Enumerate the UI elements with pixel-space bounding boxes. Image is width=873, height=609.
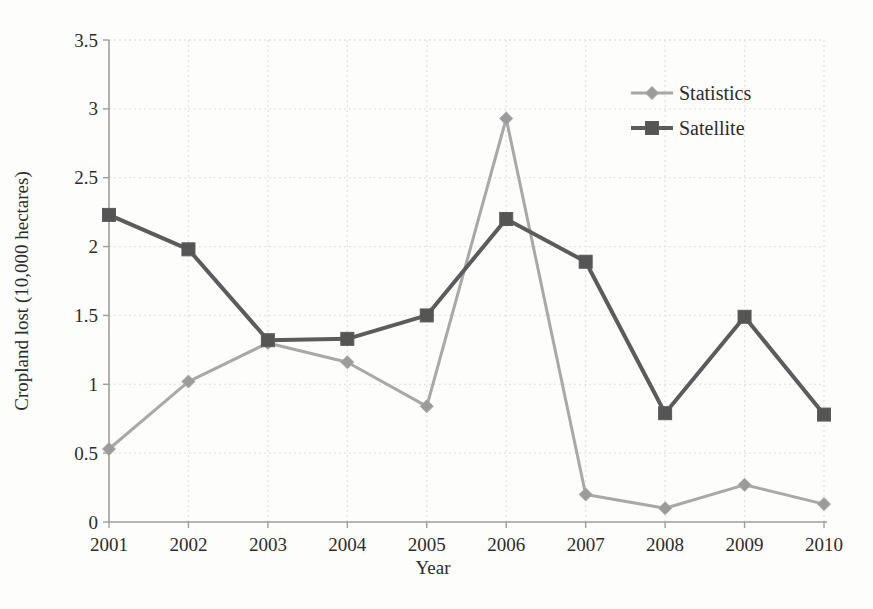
- legend-item-statistics: Statistics: [631, 82, 751, 104]
- x-tick-label: 2001: [90, 534, 128, 555]
- line-chart-figure: 00.511.522.533.5200120022003200420052006…: [0, 0, 873, 609]
- data-point-satellite-2002: [182, 243, 195, 256]
- legend-item-satellite: Satellite: [631, 117, 745, 139]
- legend-marker-diamond-icon: [646, 87, 659, 100]
- legend-marker-square-icon: [646, 122, 659, 135]
- legend-label-statistics: Statistics: [679, 82, 751, 104]
- x-tick-label: 2005: [408, 534, 446, 555]
- x-tick-label: 2010: [805, 534, 843, 555]
- x-axis-title: Year: [415, 557, 451, 578]
- x-tick-label: 2003: [249, 534, 287, 555]
- y-axis-title: Cropland lost (10,000 hectares): [11, 171, 33, 411]
- y-tick-label: 2: [89, 236, 99, 257]
- x-tick-label: 2002: [169, 534, 207, 555]
- data-point-statistics-2009: [738, 478, 751, 491]
- y-tick-label: 1: [89, 374, 99, 395]
- data-point-statistics-2004: [341, 356, 354, 369]
- chart-canvas: 00.511.522.533.5200120022003200420052006…: [0, 0, 873, 609]
- data-point-statistics-2006: [500, 112, 513, 125]
- x-tick-label: 2004: [328, 534, 367, 555]
- data-point-statistics-2010: [818, 498, 831, 511]
- data-point-satellite-2010: [818, 408, 831, 421]
- series-lines: [103, 112, 831, 515]
- legend: Statistics Satellite: [631, 82, 751, 139]
- data-point-satellite-2006: [500, 213, 513, 226]
- axes: [103, 40, 827, 528]
- y-tick-label: 1.5: [74, 305, 98, 326]
- y-tick-label: 0: [89, 512, 99, 533]
- data-point-satellite-2008: [659, 407, 672, 420]
- series-line-satellite: [109, 215, 824, 415]
- series-line-statistics: [109, 118, 824, 508]
- data-point-satellite-2009: [738, 310, 751, 323]
- x-tick-label: 2008: [646, 534, 684, 555]
- data-point-satellite-2005: [420, 309, 433, 322]
- y-tick-label: 0.5: [74, 443, 98, 464]
- y-tick-label: 3: [89, 98, 99, 119]
- y-tick-label: 3.5: [74, 30, 98, 51]
- data-point-satellite-2001: [103, 208, 116, 221]
- x-tick-label: 2006: [487, 534, 525, 555]
- data-point-statistics-2005: [420, 400, 433, 413]
- data-point-satellite-2004: [341, 332, 354, 345]
- y-tick-label: 2.5: [74, 167, 98, 188]
- x-tick-label: 2009: [726, 534, 764, 555]
- data-point-satellite-2003: [261, 334, 274, 347]
- data-point-satellite-2007: [579, 255, 592, 268]
- data-point-statistics-2008: [659, 502, 672, 515]
- legend-label-satellite: Satellite: [679, 117, 745, 139]
- x-tick-label: 2007: [567, 534, 605, 555]
- data-point-statistics-2007: [579, 488, 592, 501]
